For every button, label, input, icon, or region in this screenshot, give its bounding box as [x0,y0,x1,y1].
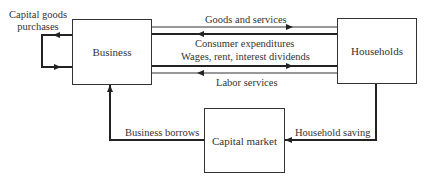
labor-services-flow [151,70,337,76]
capital-goods-label: Capital goods purchases [6,9,70,32]
capital-goods-label-line1: Capital goods [6,9,70,21]
capital-market-node: Capital market [204,108,285,173]
capital-market-label: Capital market [212,135,277,147]
households-node: Households [337,18,417,84]
goods-services-label: Goods and services [205,14,287,26]
household-saving-label: Household saving [295,127,371,139]
capital-goods-label-line2: purchases [6,21,70,33]
wages-flow [151,63,337,69]
consumer-expenditures-flow [151,31,337,37]
wages-label: Wages, rent, interest dividends [181,51,310,63]
households-label: Households [351,45,403,57]
capital-goods-loop [42,32,72,70]
consumer-expenditures-label: Consumer expenditures [195,38,294,50]
business-borrows-label: Business borrows [125,127,199,139]
business-label: Business [92,46,131,58]
labor-services-label: Labor services [216,77,278,89]
business-node: Business [72,19,152,85]
